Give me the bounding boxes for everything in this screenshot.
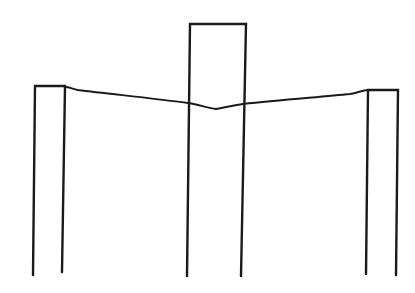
posts-and-cable-diagram (0, 0, 415, 293)
diagram-canvas (0, 0, 415, 293)
